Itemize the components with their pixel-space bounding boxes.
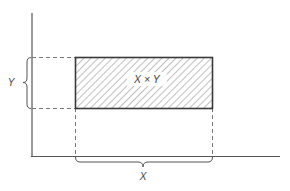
y-label: Y <box>8 77 16 88</box>
x-brace <box>76 157 213 167</box>
y-brace <box>23 58 31 109</box>
x-label: X <box>139 171 147 182</box>
area-label: X × Y <box>133 73 161 85</box>
area-diagram: X × Y Y X <box>0 0 290 191</box>
